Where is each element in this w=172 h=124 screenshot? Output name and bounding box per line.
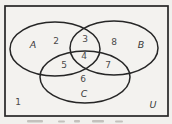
set-a-label: A xyxy=(29,39,37,50)
venn-diagram-canvas: A B C U 2 3 8 5 4 7 6 1 xyxy=(0,0,172,124)
universe-set-border xyxy=(5,6,168,116)
region-label-a-and-b: 3 xyxy=(82,34,88,44)
region-label-c-only: 6 xyxy=(80,74,86,84)
region-label-a-only: 2 xyxy=(53,36,59,46)
cropped-caption-remnant xyxy=(27,120,123,123)
set-c-label: C xyxy=(81,88,88,99)
outside-region-label: 1 xyxy=(15,97,21,107)
region-label-b-and-c: 7 xyxy=(105,60,111,70)
venn-diagram-figure: A B C U 2 3 8 5 4 7 6 1 xyxy=(0,0,172,124)
region-label-b-only: 8 xyxy=(111,37,117,47)
universe-label: U xyxy=(150,99,157,110)
set-b-label: B xyxy=(138,39,145,50)
region-label-a-and-c: 5 xyxy=(61,60,67,70)
region-label-a-and-b-and-c: 4 xyxy=(81,51,87,61)
